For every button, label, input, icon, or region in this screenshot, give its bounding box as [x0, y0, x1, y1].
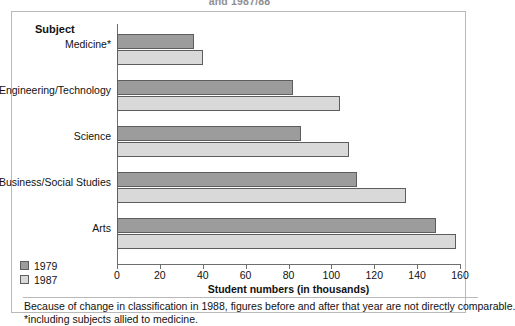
axis-tick-label: 20: [154, 269, 166, 281]
bar-group: Arts: [117, 218, 460, 250]
bar-1979: [117, 172, 357, 187]
bar-1987: [117, 96, 340, 111]
legend-swatch-icon: [20, 261, 29, 270]
category-label: Engineering/Technology: [0, 84, 111, 96]
figure-panel: Subject Medicine*Engineering/TechnologyS…: [11, 11, 466, 313]
bar-1979: [117, 80, 293, 95]
legend-label: 1979: [34, 260, 57, 272]
category-axis-heading: Subject: [35, 23, 75, 35]
chart-plot-area: Subject Medicine*Engineering/TechnologyS…: [12, 12, 467, 257]
legend-1979: 1979: [20, 259, 57, 272]
axis-tick-label: 160: [451, 269, 469, 281]
bar-1979: [117, 34, 194, 49]
footnote-line: *including subjects allied to medicine.: [24, 313, 486, 326]
category-label: Business/Social Studies: [0, 176, 111, 188]
bar-1987: [117, 50, 203, 65]
legend-swatch-icon: [20, 275, 29, 284]
chart-footnotes: Because of change in classification in 1…: [24, 300, 486, 326]
axis-tick-label: 80: [283, 269, 295, 281]
bars-container: Medicine*Engineering/TechnologyScienceBu…: [117, 24, 460, 256]
chart-title-fragment: and 1987/88: [0, 0, 479, 5]
axis-tick-label: 60: [240, 269, 252, 281]
bar-1987: [117, 234, 456, 249]
bar-1987: [117, 188, 406, 203]
chart-legend: 19791987: [20, 259, 57, 287]
footnote-line: Because of change in classification in 1…: [24, 300, 486, 313]
bar-1987: [117, 142, 349, 157]
value-axis-title: Student numbers (in thousands): [117, 283, 460, 295]
category-label: Science: [0, 130, 111, 142]
footnote-divider: [23, 297, 478, 298]
axis-tick-label: 0: [114, 269, 120, 281]
axis-tick-label: 100: [323, 269, 341, 281]
bar-group: Science: [117, 126, 460, 158]
bar-1979: [117, 218, 436, 233]
bar-1979: [117, 126, 301, 141]
bar-group: Business/Social Studies: [117, 172, 460, 204]
axis-tick-label: 40: [197, 269, 209, 281]
axis-tick-label: 120: [365, 269, 383, 281]
category-label: Medicine*: [0, 38, 111, 50]
bar-group: Medicine*: [117, 34, 460, 66]
category-label: Arts: [0, 222, 111, 234]
legend-1987: 1987: [20, 273, 57, 286]
legend-label: 1987: [34, 274, 57, 286]
axis-tick-label: 140: [408, 269, 426, 281]
bar-group: Engineering/Technology: [117, 80, 460, 112]
